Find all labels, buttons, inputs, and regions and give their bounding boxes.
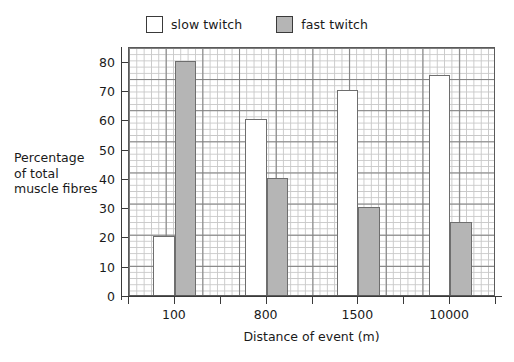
y-tick-10: [121, 267, 128, 268]
legend-label-slow-twitch: slow twitch: [171, 17, 242, 32]
y-axis-title-line-1: Percentage: [14, 150, 118, 166]
y-tick-label-0: 0: [82, 289, 115, 304]
y-tick-label-30: 30: [82, 201, 115, 216]
x-tick-3: [403, 297, 404, 304]
chart-legend: slow twitch fast twitch: [0, 12, 514, 36]
y-tick-label-80: 80: [82, 54, 115, 69]
y-tick-60: [121, 120, 128, 121]
y-axis-title-line-2: of total: [14, 166, 118, 182]
y-tick-50: [121, 150, 128, 151]
x-tick-4: [495, 297, 496, 304]
legend-item-slow-twitch: slow twitch: [146, 16, 242, 33]
x-axis-title: Distance of event (m): [128, 329, 495, 344]
plot-area: [128, 47, 495, 296]
y-tick-20: [121, 237, 128, 238]
y-axis-line: [121, 47, 122, 300]
bar-slow-twitch-100: [153, 236, 175, 295]
y-axis-title: Percentageof totalmuscle fibres: [14, 150, 118, 197]
bar-fast-twitch-1500: [358, 207, 380, 295]
x-tick-label-10000: 10000: [429, 307, 469, 322]
x-tick-label-100: 100: [162, 307, 186, 322]
x-tick-centre-10000: [449, 297, 450, 304]
x-tick-centre-1500: [357, 297, 358, 304]
bar-fast-twitch-800: [267, 178, 289, 295]
x-tick-1: [220, 297, 221, 304]
y-tick-30: [121, 208, 128, 209]
y-tick-70: [121, 91, 128, 92]
white-square-icon: [146, 16, 163, 33]
x-tick-label-800: 800: [254, 307, 278, 322]
legend-label-fast-twitch: fast twitch: [301, 17, 368, 32]
x-tick-2: [312, 297, 313, 304]
x-tick-centre-100: [174, 297, 175, 304]
y-tick-label-10: 10: [82, 259, 115, 274]
y-tick-label-70: 70: [82, 83, 115, 98]
y-tick-0: [121, 296, 128, 297]
bar-fast-twitch-100: [175, 61, 197, 295]
grey-square-icon: [276, 16, 293, 33]
legend-item-fast-twitch: fast twitch: [276, 16, 368, 33]
bar-slow-twitch-800: [245, 119, 267, 295]
bar-slow-twitch-1500: [337, 90, 359, 295]
y-tick-80: [121, 62, 128, 63]
x-tick-0: [128, 297, 129, 304]
x-tick-label-1500: 1500: [341, 307, 373, 322]
y-tick-label-20: 20: [82, 230, 115, 245]
bar-fast-twitch-10000: [450, 222, 472, 295]
y-tick-label-60: 60: [82, 113, 115, 128]
y-tick-40: [121, 179, 128, 180]
bar-slow-twitch-10000: [429, 75, 451, 295]
y-axis-title-line-3: muscle fibres: [14, 181, 118, 197]
x-tick-centre-800: [266, 297, 267, 304]
